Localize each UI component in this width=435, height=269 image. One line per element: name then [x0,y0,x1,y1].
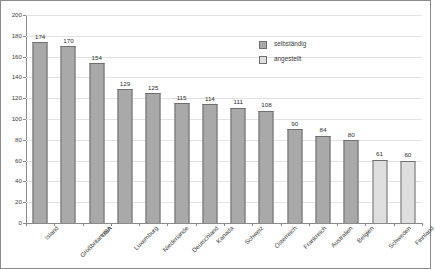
bar-schweiz[interactable] [231,108,246,223]
y-tick-label: 180 [12,33,22,39]
bar-usa[interactable] [89,63,104,223]
bar-value-label: 61 [376,151,383,157]
bar-value-label: 125 [148,85,158,91]
legend-swatch-icon [259,56,267,64]
bar-kanada[interactable] [202,104,217,223]
x-axis-label-usa: USA [99,225,112,238]
bar-slot: 154 [83,15,111,223]
bar-island[interactable] [33,42,48,223]
bar-slot: 61 [365,15,393,223]
bar-slot: 129 [111,15,139,223]
bar-slot: 111 [224,15,252,223]
y-tick-label: 0 [19,220,22,226]
bar-deutschland[interactable] [174,103,189,223]
x-axis-label-finnland: Finnland [414,225,435,246]
bar-slot: 170 [54,15,82,223]
y-tick-label: 60 [15,157,22,163]
bar-value-label: 114 [205,96,215,102]
bar-value-label: 84 [320,127,327,133]
bar-value-label: 108 [261,102,271,108]
x-axis-label-luxemburg: Luxemburg [133,225,159,251]
bar-finnland[interactable] [400,161,415,223]
y-tick-label: 200 [12,12,22,18]
x-axis-label-island: Island [44,225,60,241]
bar-value-label: 129 [120,81,130,87]
y-tick-label: 120 [12,95,22,101]
x-tick-mark-end [422,223,423,226]
bar-gro-britannien[interactable] [61,46,76,223]
bar-frankreich[interactable] [287,129,302,223]
bar-australien[interactable] [315,136,330,223]
x-axis-labels: IslandGroßbritannienUSALuxemburgNiederla… [26,225,422,269]
bar-value-label: 170 [63,38,73,44]
bar-value-label: 60 [404,152,411,158]
bar-value-label: 115 [177,95,187,101]
bar--sterreich[interactable] [259,111,274,223]
legend-item-angestellt[interactable]: angestellt [259,52,364,67]
bar-slot: 115 [167,15,195,223]
legend-item-selbstaendig[interactable]: selbständig [259,37,364,52]
bar-schweden[interactable] [372,160,387,223]
bar-slot: 125 [139,15,167,223]
y-tick-label: 100 [12,116,22,122]
bar-niederlande[interactable] [146,93,161,223]
bar-value-label: 111 [233,99,242,105]
y-tick-label: 80 [15,137,22,143]
y-tick-label: 20 [15,199,22,205]
x-axis-label-frankreich: Frankreich [302,225,327,250]
y-tick-label: 160 [12,53,22,59]
bar-value-label: 90 [291,121,298,127]
bar-value-label: 154 [92,55,102,61]
chart-legend: selbständigangestellt [259,37,364,67]
x-axis-label-belgien: Belgien [356,225,375,244]
legend-swatch-icon [259,41,267,49]
legend-label: selbständig [274,41,306,47]
x-axis-label-niederlande: Niederlande [162,225,190,253]
y-tick-label: 140 [12,74,22,80]
bar-value-label: 174 [35,34,45,40]
x-axis-label--sterreich: Österreich [274,225,299,250]
bar-belgien[interactable] [344,140,359,223]
bar-luxemburg[interactable] [117,89,132,223]
x-axis-label-schweiz: Schweiz [244,225,265,246]
bar-slot: 60 [394,15,422,223]
y-tick-label: 40 [15,178,22,184]
bar-value-label: 80 [348,132,355,138]
bar-slot: 114 [196,15,224,223]
x-axis-label-australien: Australien [330,225,354,249]
bar-slot: 174 [26,15,54,223]
legend-label: angestellt [274,56,301,62]
x-axis-label-schweden: Schweden [387,225,412,250]
